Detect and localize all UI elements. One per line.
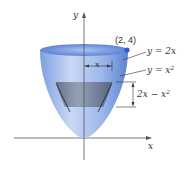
point-label: (2, 4) <box>115 36 136 45</box>
y-axis-label: y <box>73 11 78 20</box>
point-2-4 <box>124 47 129 52</box>
curve-label-y-2x: y = 2x <box>147 47 176 56</box>
radius-label: x <box>95 61 100 69</box>
height-label: 2x − x2 <box>137 90 170 99</box>
y-axis-arrow-icon <box>82 12 86 18</box>
x-axis-arrow-icon <box>146 136 152 140</box>
solid-of-revolution-diagram <box>0 0 186 173</box>
x-axis-label: x <box>148 142 153 151</box>
curve-label-y-x2: y = x2 <box>147 66 174 75</box>
